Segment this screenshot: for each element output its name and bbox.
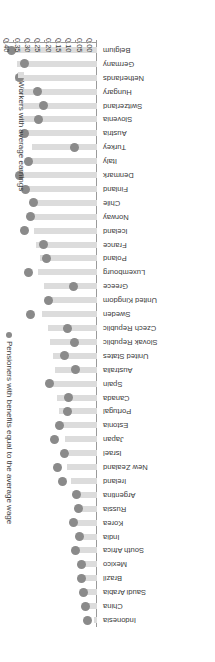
category-label: Italy	[103, 154, 117, 169]
category-label: South Africa	[103, 543, 144, 558]
chart-row	[4, 446, 97, 461]
chart-row	[4, 599, 97, 614]
bar-workers-average-earnings	[17, 61, 97, 67]
category-label: Israel	[103, 446, 122, 461]
dot-pensioners-average-wage	[55, 421, 64, 430]
dot-pensioners-average-wage	[63, 324, 72, 333]
category-label: India	[103, 529, 119, 544]
category-label: Spain	[103, 376, 122, 391]
dot-pensioners-average-wage	[71, 365, 80, 374]
dot-pensioners-average-wage	[42, 254, 51, 263]
chart-row	[4, 571, 97, 586]
category-label: Indonesia	[103, 612, 136, 627]
category-label: Mexico	[103, 557, 127, 572]
bar-workers-average-earnings	[53, 353, 97, 359]
chart-figure: IndonesiaChinaSaudi ArabiaBrazilMexicoSo…	[0, 0, 215, 662]
dot-pensioners-average-wage	[81, 602, 90, 611]
chart-row	[4, 529, 97, 544]
category-label: Switzerland	[103, 98, 142, 113]
category-label: Ireland	[103, 473, 126, 488]
value-axis-tick	[24, 40, 25, 43]
category-axis-labels: IndonesiaChinaSaudi ArabiaBrazilMexicoSo…	[99, 43, 215, 627]
chart-row	[4, 487, 97, 502]
value-axis-tick	[96, 40, 97, 43]
chart-row	[4, 543, 97, 558]
category-label: Norway	[103, 209, 129, 224]
chart-row	[4, 585, 97, 600]
category-label: Estonia	[103, 418, 128, 433]
chart-row	[4, 140, 97, 155]
category-label: Denmark	[103, 167, 134, 182]
value-axis-minor-tick	[81, 41, 82, 43]
chart-row	[4, 515, 97, 530]
value-axis-tick	[55, 40, 56, 43]
chart-row	[4, 362, 97, 377]
bar-workers-average-earnings	[79, 547, 97, 553]
value-axis-minor-tick	[39, 41, 40, 43]
value-axis-tick	[13, 40, 14, 43]
category-label: Russia	[103, 501, 126, 516]
bar-workers-average-earnings	[53, 381, 97, 387]
value-axis: 0.000.050.100.150.200.250.300.350.400.45	[4, 1, 97, 43]
plot-area	[4, 43, 97, 627]
dot-pensioners-average-wage	[60, 351, 69, 360]
bar-workers-average-earnings	[46, 297, 97, 303]
dot-pensioners-average-wage	[83, 616, 92, 625]
category-label: Belgium	[103, 42, 130, 57]
bar-workers-average-earnings	[34, 200, 97, 206]
chart-row	[4, 557, 97, 572]
bar-workers-average-earnings	[65, 436, 97, 442]
value-axis-tick	[34, 40, 35, 43]
dot-pensioners-average-wage	[60, 449, 69, 458]
category-label: New Zealand	[103, 459, 148, 474]
chart-row	[4, 348, 97, 363]
category-label: Iceland	[103, 223, 128, 238]
dot-pensioners-average-wage	[63, 407, 72, 416]
chart-row	[4, 320, 97, 335]
chart-row	[4, 293, 97, 308]
dot-pensioners-average-wage	[77, 560, 86, 569]
dot-pensioners-average-wage	[24, 157, 33, 166]
dot-pensioners-average-wage	[70, 338, 79, 347]
bar-workers-average-earnings	[22, 103, 97, 109]
category-label: Canada	[103, 390, 130, 405]
value-axis-tick	[3, 40, 4, 43]
dot-pensioners-average-wage	[50, 435, 59, 444]
category-label: Chile	[103, 195, 120, 210]
bar-workers-average-earnings	[42, 311, 97, 317]
bar-workers-average-earnings	[69, 450, 97, 456]
category-label: France	[103, 237, 127, 252]
category-label: Argentina	[103, 487, 136, 502]
bar-workers-average-earnings	[77, 520, 97, 526]
chart-row	[4, 376, 97, 391]
dot-pensioners-average-wage	[44, 296, 53, 305]
bar-workers-average-earnings	[32, 144, 97, 150]
chart-row	[4, 612, 97, 627]
chart-row	[4, 154, 97, 169]
chart-row	[4, 195, 97, 210]
chart-row	[4, 112, 97, 127]
category-label: Netherlands	[103, 70, 144, 85]
bar-workers-average-earnings	[38, 269, 97, 275]
chart-row	[4, 56, 97, 71]
category-label: Luxembourg	[103, 265, 145, 280]
bar-workers-average-earnings	[26, 158, 97, 164]
value-axis-tick	[65, 40, 66, 43]
value-axis-tick	[44, 40, 45, 43]
category-label: Poland	[103, 251, 127, 266]
bar-workers-average-earnings	[15, 75, 97, 81]
bar-workers-average-earnings	[20, 116, 98, 122]
chart-row	[4, 279, 97, 294]
value-axis-minor-tick	[60, 41, 61, 43]
value-axis-minor-tick	[19, 41, 20, 43]
category-label: Turkey	[103, 140, 126, 155]
category-label: Hungary	[103, 84, 132, 99]
bar-workers-average-earnings	[28, 186, 97, 192]
bar-workers-average-earnings	[71, 478, 97, 484]
dot-pensioners-average-wage	[15, 73, 24, 82]
chart-row	[4, 404, 97, 419]
dot-pensioners-average-wage	[69, 282, 78, 291]
value-axis-minor-tick	[29, 41, 30, 43]
value-axis-minor-tick	[50, 41, 51, 43]
chart-row	[4, 167, 97, 182]
